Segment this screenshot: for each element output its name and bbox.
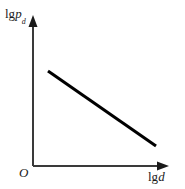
data-series-line <box>48 71 156 146</box>
y-axis-label-prefix: lg <box>5 6 15 21</box>
plot-canvas <box>0 0 185 189</box>
y-axis-label-subscript: d <box>22 17 26 26</box>
x-axis-label-variable: d <box>158 169 165 184</box>
y-axis-label-variable: p <box>15 6 22 21</box>
y-axis-arrowhead <box>29 15 38 27</box>
y-axis-label: lgpd <box>5 7 26 24</box>
origin-label: O <box>19 166 28 179</box>
x-axis-label-prefix: lg <box>148 169 158 184</box>
figure-container: lgpd lgd O <box>0 0 185 189</box>
x-axis-label: lgd <box>148 170 165 183</box>
